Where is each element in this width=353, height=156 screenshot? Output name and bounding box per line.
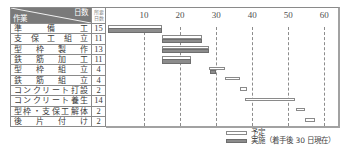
table-row: 鉄筋組立 4 [11,76,105,86]
task-days: 2 [92,117,105,126]
table-row: 後片付け 2 [11,117,105,127]
table-row: コンクリート養生 14 [11,96,105,106]
table-row: 準備工 15 [11,24,105,34]
task-days: 4 [92,76,105,85]
gridline [252,27,253,126]
gridline [288,27,289,126]
gridline [324,27,325,126]
plan-bar [305,118,315,122]
plan-bar [296,108,306,112]
actual-bar [162,59,191,63]
table-row: 型枠製作 13 [11,45,105,55]
table-header: 日数 作業 所要 日数 [11,7,105,24]
task-name: 後片付け [11,117,92,126]
table-row: 支保工組立 11 [11,34,105,44]
gantt-chart: 10 20 30 40 50 60 [106,7,340,128]
table-row: 型枠・支保工解体 2 [11,107,105,117]
header-duration-cell: 所要 日数 [92,8,105,23]
x-tick-label: 60 [320,10,329,20]
task-name: 鉄筋組立 [11,76,92,85]
task-days: 4 [92,65,105,74]
plan-bar [245,98,295,102]
actual-bar [162,39,202,43]
x-tick-label: 30 [212,10,221,20]
table-row: 型枠組立 4 [11,65,105,75]
plan-bar [240,87,247,91]
task-days: 13 [92,45,105,54]
x-tick-label: 40 [248,10,257,20]
actual-bar [108,28,162,32]
header-task-days-cell: 日数 作業 [11,8,92,23]
task-name: 鉄筋加工 [11,55,92,64]
task-days: 14 [92,96,105,105]
task-name: 支保工組立 [11,34,92,43]
legend-actual-label: 実施（着手後 30 日現在） [251,136,335,145]
legend-actual-swatch [226,139,247,143]
x-tick-label: 50 [284,10,293,20]
gridline [216,27,217,126]
task-days: 11 [92,34,105,43]
task-days: 11 [92,55,105,64]
task-name: コンクリート養生 [11,96,92,105]
task-name: 準備工 [11,24,92,33]
header-task-label: 作業 [13,15,27,23]
task-name: 型枠組立 [11,65,92,74]
legend-plan-swatch [226,131,247,135]
table-row: コンクリート打設 2 [11,86,105,96]
task-days: 2 [92,107,105,116]
table-row: 鉄筋加工 11 [11,55,105,65]
task-name: 型枠・支保工解体 [11,107,92,116]
task-days: 15 [92,24,105,33]
actual-bar [210,70,216,74]
task-name: コンクリート打設 [11,86,92,95]
x-tick-label: 10 [140,10,149,20]
x-tick-label: 20 [176,10,185,20]
gridline [144,27,145,126]
header-duration-line2: 日数 [94,16,104,22]
plan-bar [225,77,239,81]
task-days: 2 [92,86,105,95]
header-days-label: 日数 [74,9,88,17]
task-name: 型枠製作 [11,45,92,54]
task-table: 日数 作業 所要 日数 準備工 15 支保工組立 11 型枠製作 13 鉄筋加工… [10,7,106,127]
actual-bar [162,49,209,53]
